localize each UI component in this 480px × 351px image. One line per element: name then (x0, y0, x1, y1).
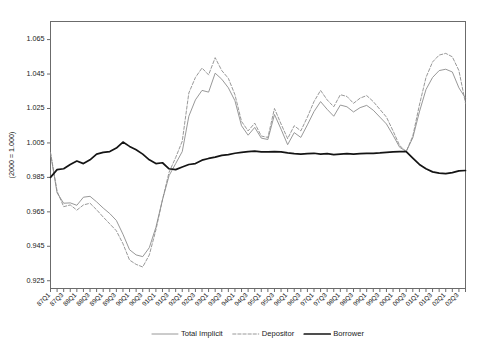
x-axis-tick-label: 02Q1 (430, 291, 447, 308)
legend-label-borrower: Borrower (333, 329, 364, 338)
x-axis-tick-label: 98Q3 (338, 291, 355, 308)
y-axis-tick-label: 0.985 (27, 172, 45, 181)
x-axis-tick-label: 94Q3 (233, 291, 250, 308)
x-axis-tick-label: 99Q1 (351, 291, 368, 308)
y-axis-title: (2000 = 1.000) (7, 132, 16, 179)
series-group (51, 53, 466, 267)
x-axis-tick-label: 00Q1 (378, 291, 395, 308)
x-axis-tick-label: 87Q1 (35, 291, 52, 308)
legend-label-depositor: Depositor (262, 329, 295, 338)
x-axis-tick-label: 01Q3 (417, 291, 434, 308)
y-axis-tick-label: 1.025 (27, 103, 45, 112)
x-axis-tick-label: 97Q3 (312, 291, 329, 308)
x-axis-tick-group: 87Q187Q388Q188Q389Q189Q390Q190Q391Q191Q3… (35, 289, 465, 308)
x-axis-tick-label: 95Q1 (246, 291, 263, 308)
x-axis-tick-label: 97Q1 (299, 291, 316, 308)
x-axis-tick-label: 96Q3 (286, 291, 303, 308)
x-axis-tick-label: 96Q1 (272, 291, 289, 308)
x-axis-tick-label: 92Q3 (180, 291, 197, 308)
x-axis-tick-label: 94Q1 (220, 291, 237, 308)
series-line-borrower (51, 142, 466, 177)
x-axis-tick-label: 89Q3 (101, 291, 118, 308)
x-axis-tick-label: 87Q3 (48, 291, 65, 308)
x-axis-tick-label: 91Q3 (154, 291, 171, 308)
legend-label-total-implicit: Total Implicit (181, 329, 224, 338)
x-axis-tick-label: 88Q1 (62, 291, 79, 308)
y-axis-tick-label: 0.945 (27, 241, 45, 250)
y-axis-tick-label: 1.045 (27, 69, 45, 78)
x-axis-tick-label: 95Q3 (259, 291, 276, 308)
chart-legend: Total ImplicitDepositorBorrower (152, 329, 365, 338)
y-axis-tick-label: 1.005 (27, 138, 45, 147)
x-axis-tick-label: 01Q1 (404, 291, 421, 308)
x-axis-tick-label: 98Q1 (325, 291, 342, 308)
y-axis-tick-group: 0.9250.9450.9650.9851.0051.0251.0451.065 (27, 34, 51, 284)
x-axis-tick-label: 88Q3 (75, 291, 92, 308)
y-axis-tick-label: 0.965 (27, 207, 45, 216)
series-line-total-implicit (51, 69, 466, 256)
chart-container: 0.9250.9450.9650.9851.0051.0251.0451.065… (0, 0, 480, 351)
y-axis-tick-label: 0.925 (27, 276, 45, 285)
x-axis-tick-label: 93Q3 (206, 291, 223, 308)
line-chart: 0.9250.9450.9650.9851.0051.0251.0451.065… (0, 0, 480, 351)
x-axis-tick-label: 92Q1 (167, 291, 184, 308)
series-line-depositor (51, 53, 466, 267)
x-axis-tick-label: 90Q1 (114, 291, 131, 308)
x-axis-tick-label: 90Q3 (127, 291, 144, 308)
x-axis-tick-label: 91Q1 (141, 291, 158, 308)
x-axis-tick-label: 89Q1 (88, 291, 105, 308)
x-axis-tick-label: 99Q3 (365, 291, 382, 308)
plot-frame (51, 22, 466, 289)
x-axis-tick-label: 02Q3 (444, 291, 461, 308)
x-axis-tick-label: 00Q3 (391, 291, 408, 308)
x-axis-tick-label: 93Q1 (193, 291, 210, 308)
y-axis-tick-label: 1.065 (27, 34, 45, 43)
